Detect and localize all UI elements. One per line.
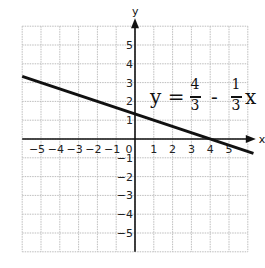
svg-text:3: 3 [126, 77, 133, 90]
svg-text:−2: −2 [85, 143, 101, 156]
svg-text:3: 3 [188, 143, 195, 156]
svg-text:4: 4 [207, 143, 214, 156]
svg-text:−4: −4 [117, 208, 133, 221]
svg-text:4: 4 [126, 58, 133, 71]
fraction2-numerator: 1 [229, 76, 243, 92]
svg-text:−2: −2 [117, 171, 133, 184]
svg-text:1: 1 [150, 143, 157, 156]
svg-text:−5: −5 [117, 227, 133, 240]
svg-text:−5: −5 [29, 143, 45, 156]
fraction1-denominator: 3 [188, 97, 202, 113]
svg-text:2: 2 [169, 143, 176, 156]
line-series [22, 76, 253, 153]
svg-text:y: y [132, 5, 139, 18]
equation-variable: x [245, 85, 256, 109]
fraction1-numerator: 4 [188, 76, 202, 92]
fraction2-denominator: 3 [229, 97, 243, 113]
equation-lhs: y = [150, 85, 184, 109]
svg-text:−1: −1 [117, 152, 133, 165]
equation-operator: - [211, 85, 218, 109]
svg-text:−4: −4 [48, 143, 64, 156]
coordinate-plane: xy −5−4−3−2−101234554321−1−2−3−4−5 [0, 0, 265, 268]
svg-text:5: 5 [126, 39, 133, 52]
svg-text:−3: −3 [66, 143, 82, 156]
svg-text:x: x [259, 133, 265, 146]
svg-text:2: 2 [126, 95, 133, 108]
svg-text:−3: −3 [117, 189, 133, 202]
svg-text:1: 1 [126, 114, 133, 127]
